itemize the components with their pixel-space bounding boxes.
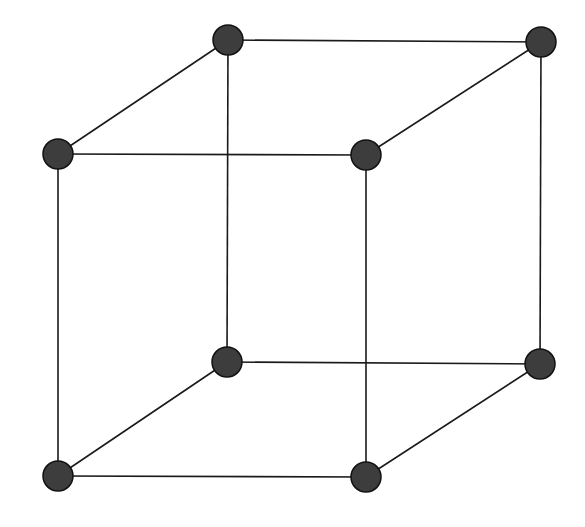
cube-vertices	[43, 25, 556, 492]
cube-edges	[58, 40, 541, 477]
vertex-back-bottom-right	[525, 349, 555, 379]
edge-back-bottom-left-to-back-bottom-right	[227, 362, 540, 364]
vertex-back-bottom-left	[212, 347, 242, 377]
edge-front-top-left-to-front-top-right	[58, 154, 366, 155]
edge-back-top-left-to-front-top-left	[58, 40, 228, 154]
vertex-front-top-right	[351, 140, 381, 170]
vertex-back-top-left	[213, 25, 243, 55]
vertex-back-top-right	[526, 27, 556, 57]
vertex-front-bottom-left	[43, 461, 73, 491]
edge-back-bottom-left-to-front-bottom-left	[58, 362, 227, 476]
vertex-front-bottom-right	[351, 462, 381, 492]
edge-back-top-right-to-back-bottom-right	[540, 42, 541, 364]
edge-back-bottom-right-to-front-bottom-right	[366, 364, 540, 477]
cube-diagram	[0, 0, 585, 527]
edge-back-top-right-to-front-top-right	[366, 42, 541, 155]
edge-back-top-left-to-back-top-right	[228, 40, 541, 42]
vertex-front-top-left	[43, 139, 73, 169]
edge-front-bottom-left-to-front-bottom-right	[58, 476, 366, 477]
edge-back-top-left-to-back-bottom-left	[227, 40, 228, 362]
